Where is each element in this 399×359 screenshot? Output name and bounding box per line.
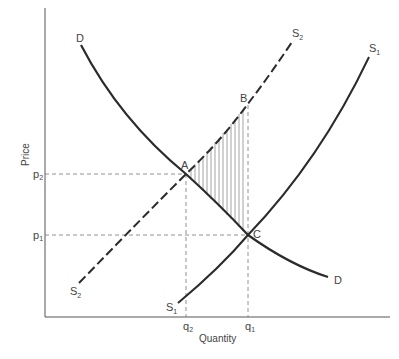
p2-label: p2 xyxy=(33,168,43,181)
x-axis-title: Quantity xyxy=(199,333,236,344)
s2-label-top: S2 xyxy=(292,27,303,41)
shaded-area xyxy=(191,110,243,231)
s2-label-bottom: S2 xyxy=(70,285,81,299)
s1-label-bottom: S1 xyxy=(166,301,177,315)
demand-label-bottom: D xyxy=(334,274,342,286)
supply-demand-diagram: D D S2 S2 S1 S1 A B C p2 p1 q2 q1 Price … xyxy=(0,0,399,359)
point-a-label: A xyxy=(181,159,189,171)
q1-label: q1 xyxy=(245,320,255,333)
q2-label: q2 xyxy=(183,320,193,333)
y-axis-title: Price xyxy=(20,143,31,166)
point-c-label: C xyxy=(253,228,261,240)
point-b-label: B xyxy=(240,92,247,104)
p1-label: p1 xyxy=(33,229,43,242)
demand-label-top: D xyxy=(76,32,84,44)
s1-label-top: S1 xyxy=(369,42,380,56)
